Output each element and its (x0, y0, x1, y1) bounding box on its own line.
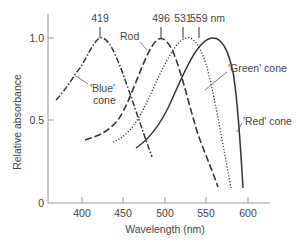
blue-cone-annotation-line1: 'Blue' (90, 82, 115, 94)
red-cone-curve (136, 38, 243, 188)
peak-label-blue: 419 (91, 12, 109, 24)
y-tick-label: 1.0 (29, 32, 44, 44)
blue-cone-annotation-line2: cone (93, 94, 116, 106)
rod-annotation: Rod (120, 30, 139, 42)
x-tick-label: 600 (239, 207, 257, 219)
y-tick-label: 0.5 (29, 114, 44, 126)
absorbance-chart: 1.0 0.5 0 400 450 500 550 600 Wavelength… (0, 0, 296, 242)
peak-label-rod: 496 (152, 12, 170, 24)
x-tick-label: 550 (197, 207, 215, 219)
green-cone-leader (205, 72, 227, 90)
rod-curve (85, 39, 218, 187)
blue-cone-leader (76, 76, 88, 84)
x-tick-label: 500 (156, 207, 174, 219)
peak-label-red: 559 nm (190, 12, 225, 24)
y-tick-label: 0 (38, 197, 44, 209)
x-axis-title: Wavelength (nm) (125, 223, 205, 235)
green-cone-curve (113, 38, 231, 188)
red-cone-annotation: 'Red' cone (243, 115, 292, 127)
rod-leader (140, 42, 147, 50)
x-tick-label: 400 (73, 207, 91, 219)
y-axis-title: Relative absorbance (11, 74, 23, 170)
x-tick-label: 450 (114, 207, 132, 219)
green-cone-annotation: 'Green' cone (228, 62, 287, 74)
